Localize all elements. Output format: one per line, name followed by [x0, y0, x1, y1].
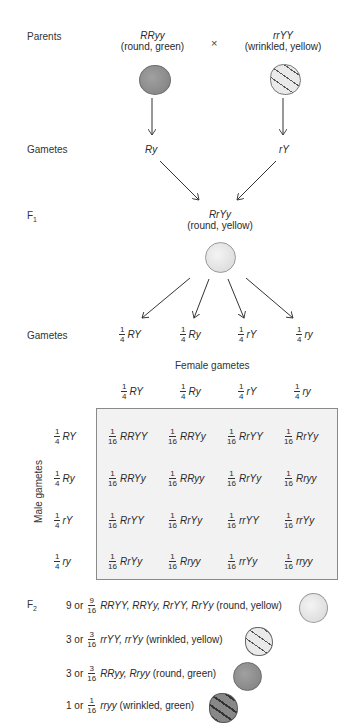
label-female-gametes: Female gametes	[175, 360, 249, 371]
f2-row-wrinkled-green: 1 or 116 rryy (wrinkled, green)	[66, 696, 194, 715]
arrow-f1-RY	[142, 278, 190, 318]
parent-left-phenotype: (round, green)	[105, 41, 200, 52]
yellow-round-pea-icon	[205, 242, 236, 273]
f1-gamete-rY: 14rY	[238, 325, 256, 344]
f2-row-round-green: 3 or 316 RRyy, Rryy (round, green)	[66, 664, 216, 683]
arrow-ry-to-f1	[160, 161, 199, 200]
female-gamete-rY: 14rY	[238, 382, 256, 401]
punnett-cell: 116rryy	[283, 552, 313, 571]
gamete-left: Ry	[145, 144, 157, 155]
label-gametes-f1: Gametes	[27, 330, 68, 341]
green-round-pea-icon	[139, 65, 171, 95]
parent-left: RRyy (round, green)	[105, 30, 200, 52]
gamete-right: rY	[279, 144, 289, 155]
cross-symbol: ×	[211, 37, 217, 49]
punnett-cell: 116RRYy	[107, 469, 146, 488]
label-parents: Parents	[27, 31, 61, 42]
arrow-f1-ry	[246, 278, 293, 318]
f1-genotype: RrYy	[170, 209, 270, 220]
parent-right-phenotype: (wrinkled, yellow)	[232, 41, 334, 52]
punnett-cell: 116RrYY	[107, 511, 144, 530]
punnett-cell: 116RrYy	[107, 552, 142, 571]
punnett-cell: 116RRyy	[167, 469, 204, 488]
f1-gamete-RY: 14RY	[119, 325, 141, 344]
male-gamete-Ry: 14Ry	[54, 469, 75, 488]
green-round-pea-icon	[233, 662, 262, 691]
yellow-wrinkled-pea-icon	[245, 627, 273, 656]
punnett-cell: 116RrYY	[226, 427, 263, 446]
punnett-cell: 116rrYY	[226, 511, 259, 530]
f1-gamete-Ry: 14Ry	[180, 325, 201, 344]
female-gamete-RY: 14RY	[121, 382, 143, 401]
label-f1: F1	[27, 210, 37, 223]
parent-right-genotype: rrYY	[232, 30, 334, 41]
punnett-cell: 116RrYy	[226, 469, 261, 488]
punnett-cell: 116rrYy	[226, 552, 257, 571]
parent-left-genotype: RRyy	[105, 30, 200, 41]
f2-row-wrinkled-yellow: 3 or 316 rrYY, rrYy (wrinkled, yellow)	[66, 630, 223, 649]
punnett-cell: 116RrYy	[283, 427, 318, 446]
yellow-wrinkled-pea-icon	[270, 64, 301, 95]
f1-gamete-ry: 14ry	[296, 325, 313, 344]
female-gamete-ry: 14ry	[294, 382, 311, 401]
yellow-round-pea-icon	[299, 593, 328, 623]
arrow-rY-to-f1	[237, 161, 276, 200]
punnett-cell: 116RRYY	[107, 427, 147, 446]
label-f2: F2	[27, 599, 37, 612]
punnett-cell: 116RRYy	[167, 427, 206, 446]
f2-row-round-yellow: 9 or 916 RRYY, RRYy, RrYY, RrYy (round, …	[66, 596, 282, 615]
label-gametes-parent: Gametes	[27, 144, 68, 155]
f1-phenotype: (round, yellow)	[170, 220, 270, 231]
punnett-cell: 116rrYy	[283, 511, 314, 530]
green-wrinkled-pea-icon	[209, 693, 238, 723]
arrow-f1-Ry	[194, 279, 209, 318]
punnett-cell: 116Rryy	[283, 469, 316, 488]
male-gamete-ry: 14ry	[54, 552, 71, 571]
parent-right: rrYY (wrinkled, yellow)	[232, 30, 334, 52]
label-male-gametes: Male gametes	[33, 447, 44, 537]
arrow-f1-rY	[228, 279, 244, 318]
female-gamete-Ry: 14Ry	[180, 382, 201, 401]
punnett-cell: 116Rryy	[167, 552, 200, 571]
male-gamete-RY: 14RY	[54, 427, 76, 446]
punnett-cell: 116RrYy	[167, 511, 202, 530]
f1-info: RrYy (round, yellow)	[170, 209, 270, 231]
male-gamete-rY: 14rY	[54, 511, 72, 530]
